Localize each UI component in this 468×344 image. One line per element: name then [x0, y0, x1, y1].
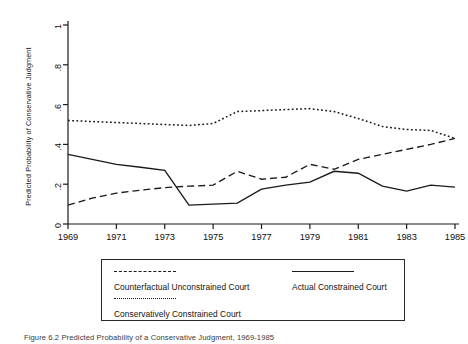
y-tick-label: .4: [53, 143, 63, 169]
legend-swatch-dotted: [114, 298, 176, 299]
x-tick-label: 1977: [242, 232, 282, 242]
x-tick-label: 1969: [48, 232, 88, 242]
plot-area: Predicted Probability of Conservative Ju…: [0, 0, 468, 250]
y-tick-label: .2: [53, 183, 63, 209]
x-tick-label: 1981: [338, 232, 378, 242]
figure-caption: Figure 6.2 Predicted Probability of a Co…: [24, 333, 444, 342]
y-tick-label: 1: [53, 24, 63, 50]
legend-label: Conservatively Constrained Court: [114, 309, 241, 319]
figure-container: Predicted Probability of Conservative Ju…: [0, 0, 468, 344]
y-tick-label: .6: [53, 104, 63, 130]
x-tick-label: 1971: [96, 232, 136, 242]
x-tick-label: 1983: [387, 232, 427, 242]
x-tick-label: 1973: [145, 232, 185, 242]
legend-label: Counterfactual Unconstrained Court: [114, 282, 249, 292]
series-line-0: [68, 138, 455, 205]
chart-svg: [0, 0, 468, 250]
x-tick-label: 1979: [290, 232, 330, 242]
x-tick-label: 1975: [193, 232, 233, 242]
legend-swatch-dashed: [114, 271, 176, 272]
x-tick-label: 1985: [435, 232, 468, 242]
series-line-2: [68, 109, 455, 139]
y-tick-label: .8: [53, 64, 63, 90]
axes-group: [63, 21, 459, 229]
series-group: [68, 109, 455, 206]
legend-label: Actual Constrained Court: [292, 282, 387, 292]
chart-legend: Counterfactual Unconstrained CourtActual…: [101, 259, 405, 321]
legend-swatch-solid: [292, 271, 354, 272]
